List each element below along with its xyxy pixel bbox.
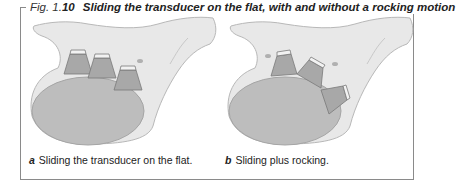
- illustration-sliding-flat: [28, 16, 218, 146]
- panel-a-letter: a: [29, 154, 35, 166]
- frame-top-rule-left: [20, 7, 26, 8]
- organ-shape: [229, 77, 341, 145]
- panel-a-text: Sliding the transducer on the flat.: [39, 154, 193, 166]
- panel-b-caption: bSliding plus rocking.: [225, 154, 329, 166]
- illustration-sliding-rocking: [225, 16, 415, 146]
- panel-a-caption: aSliding the transducer on the flat.: [29, 154, 192, 166]
- figure-title: Sliding the transducer on the flat, with…: [83, 1, 455, 13]
- figure-prefix: Fig. 1.: [30, 1, 62, 13]
- figure-caption: Fig. 1.10Sliding the transducer on the f…: [28, 0, 457, 14]
- figure-number: 10: [62, 1, 75, 13]
- panel-b-text: Sliding plus rocking.: [235, 154, 328, 166]
- panel-b-letter: b: [225, 154, 231, 166]
